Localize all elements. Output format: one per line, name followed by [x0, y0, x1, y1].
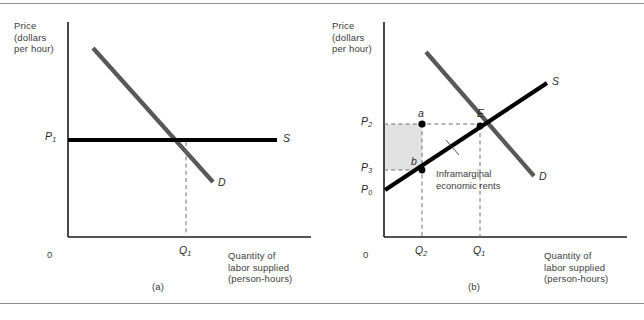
- price-tick-P3: P3: [361, 162, 372, 177]
- point-E-marker: [477, 123, 484, 130]
- point-b-marker: [419, 167, 426, 174]
- quantity-tick-Q1: Q1: [179, 245, 191, 260]
- price-tick-P2: P2: [361, 116, 372, 131]
- point-b-label: b: [411, 156, 417, 168]
- panel-caption-b: (b): [468, 281, 480, 293]
- price-tick-P1-sub: 1: [52, 136, 56, 143]
- x-axis-title-b: Quantity oflabor supplied(person-hours): [544, 250, 608, 285]
- quantity-tick-Q2: Q2: [415, 245, 427, 260]
- x-axis-title-a: Quantity oflabor supplied(person-hours): [228, 250, 292, 285]
- x-axis-title-line-1: Quantity of: [228, 250, 276, 261]
- y-axis-title-line-1: Price: [332, 20, 354, 31]
- figure-container: Price(dollarsper hour) Quantity oflabor …: [0, 0, 644, 320]
- price-tick-P0: P0: [361, 184, 372, 199]
- supply-curve-label-a: S: [283, 133, 290, 145]
- x-axis-title-line-2: labor supplied: [544, 262, 605, 273]
- origin-label-b: 0: [363, 249, 368, 261]
- annotation-line-2: economic rents: [436, 180, 500, 191]
- supply-curve-label-b: S: [552, 76, 559, 88]
- panel-b: Price(dollarsper hour) Quantity oflabor …: [322, 0, 644, 320]
- point-E-label: E: [477, 108, 484, 120]
- inframarginal-rents-annotation: Inframarginaleconomic rents: [436, 168, 500, 191]
- panel-caption-a: (a): [152, 281, 164, 293]
- price-tick-P2-sub: 2: [368, 121, 372, 128]
- demand-curve-label-b: D: [539, 171, 547, 183]
- demand-curve-label-a: D: [218, 177, 226, 189]
- y-axis-title-line-1: Price: [14, 20, 36, 31]
- x-axis-title-line-3: (person-hours): [228, 273, 292, 284]
- annotation-line-1: Inframarginal: [436, 168, 491, 179]
- y-axis-title-line-3: per hour): [332, 43, 372, 54]
- x-axis-title-line-3: (person-hours): [544, 273, 608, 284]
- axes-a: [68, 22, 311, 237]
- y-axis-title-a: Price(dollarsper hour): [14, 20, 54, 55]
- price-tick-P3-sub: 3: [368, 167, 372, 174]
- x-axis-title-line-2: labor supplied: [228, 262, 289, 273]
- quantity-tick-Q1: Q1: [473, 245, 485, 260]
- panel-a: Price(dollarsper hour) Quantity oflabor …: [0, 0, 322, 320]
- origin-label-a: 0: [47, 249, 52, 261]
- y-axis-title-b: Price(dollarsper hour): [332, 20, 372, 55]
- y-axis-title-line-2: (dollars: [332, 32, 364, 43]
- price-tick-P0-sub: 0: [368, 189, 372, 196]
- demand-curve: [93, 48, 213, 182]
- point-a-marker: [418, 120, 425, 127]
- point-a-label: a: [418, 108, 424, 120]
- y-axis-title-line-3: per hour): [14, 43, 54, 54]
- quantity-tick-Q2-sub: 2: [423, 250, 427, 257]
- quantity-tick-Q1-sub: 1: [481, 250, 485, 257]
- x-axis-title-line-1: Quantity of: [544, 250, 592, 261]
- quantity-tick-Q1-sub: 1: [187, 250, 191, 257]
- y-axis-title-line-2: (dollars: [14, 32, 46, 43]
- price-tick-P1: P1: [45, 131, 56, 146]
